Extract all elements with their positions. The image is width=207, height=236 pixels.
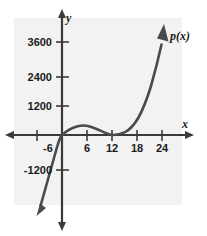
x-tick-label-12: 12 xyxy=(106,142,118,154)
curve-lower-left-arrowhead xyxy=(37,204,47,217)
y-tick-label-3600: 3600 xyxy=(28,36,52,48)
x-axis-label: x xyxy=(181,117,188,131)
y-axis-top-arrowhead xyxy=(58,9,66,18)
y-tick-label-minus1200: -1200 xyxy=(24,164,52,176)
y-axis-bottom-arrowhead xyxy=(58,222,66,231)
y-tick-label-2400: 2400 xyxy=(28,71,52,83)
graph-svg: -6 6 12 18 24 3600 2400 1200 -1200 y x p… xyxy=(0,0,207,236)
y-axis-label: y xyxy=(64,11,72,25)
x-tick-label-18: 18 xyxy=(131,142,143,154)
x-axis-right-arrowhead xyxy=(185,131,194,139)
figure-container: -6 6 12 18 24 3600 2400 1200 -1200 y x p… xyxy=(0,0,207,236)
x-axis-left-arrowhead xyxy=(5,131,14,139)
x-tick-label-6: 6 xyxy=(84,142,90,154)
y-tick-label-1200: 1200 xyxy=(28,100,52,112)
curve-label-p-of-x: p(x) xyxy=(169,29,190,43)
x-tick-label-24: 24 xyxy=(156,142,169,154)
x-tick-label-minus6: -6 xyxy=(43,142,53,154)
